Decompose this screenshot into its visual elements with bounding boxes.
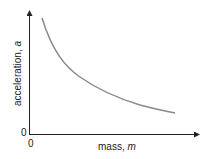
y-axis-label: acceleration, a (12, 41, 23, 106)
x-zero-label: 0 (28, 138, 34, 149)
chart: 0 0 mass, m acceleration, a (0, 0, 214, 159)
y-zero-label: 0 (21, 127, 27, 138)
curve (42, 18, 175, 113)
x-axis-label: mass, m (98, 141, 136, 152)
